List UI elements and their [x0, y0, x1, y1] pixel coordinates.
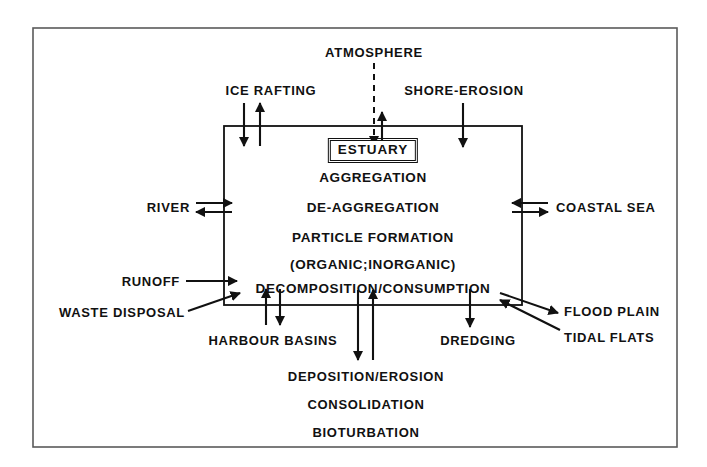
label-dredging: DREDGING [440, 334, 516, 347]
ice-rafting-arrows [244, 103, 260, 146]
tidal-flats-arrow [500, 300, 560, 330]
process-organic-inorganic: (ORGANIC;INORGANIC) [290, 258, 456, 272]
label-tidal-flats: TIDAL FLATS [564, 331, 654, 344]
waste-disposal-arrow [188, 293, 240, 311]
river-arrows [196, 203, 232, 212]
process-deposition-erosion: DEPOSITION/EROSION [288, 370, 444, 383]
label-runoff: RUNOFF [122, 275, 180, 288]
atmosphere-arrows [374, 63, 382, 150]
coastal-sea-arrows [512, 203, 548, 212]
estuary-sediment-flow-diagram: ATMOSPHERE ICE RAFTING SHORE-EROSION EST… [0, 0, 707, 467]
process-bioturbation: BIOTURBATION [312, 426, 419, 439]
process-decomposition-consumption: DECOMPOSITION/CONSUMPTION [256, 282, 491, 296]
label-coastal-sea: COASTAL SEA [556, 201, 656, 214]
process-consolidation: CONSOLIDATION [307, 398, 424, 411]
deposition-erosion-arrows [358, 290, 373, 360]
flood-plain-arrow [500, 293, 558, 313]
label-shore-erosion: SHORE-EROSION [404, 84, 524, 97]
label-flood-plain: FLOOD PLAIN [564, 305, 660, 318]
estuary-title-box: ESTUARY [330, 140, 416, 161]
label-ice-rafting: ICE RAFTING [226, 84, 317, 97]
label-waste-disposal: WASTE DISPOSAL [59, 306, 185, 319]
process-aggregation: AGGREGATION [319, 171, 427, 185]
process-particle-formation: PARTICLE FORMATION [292, 231, 454, 245]
label-harbour-basins: HARBOUR BASINS [209, 334, 338, 347]
label-atmosphere: ATMOSPHERE [325, 46, 423, 59]
process-de-aggregation: DE-AGGREGATION [307, 201, 440, 215]
label-river: RIVER [147, 201, 190, 214]
